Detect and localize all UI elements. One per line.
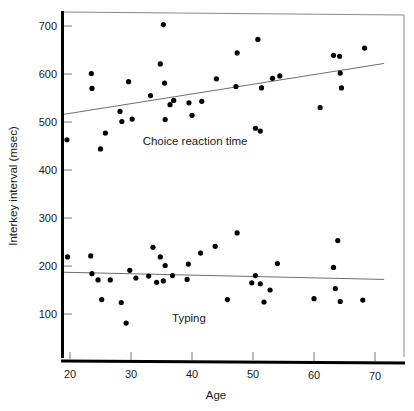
data-point xyxy=(162,81,167,86)
data-point xyxy=(89,86,94,91)
data-point xyxy=(214,76,219,81)
data-point xyxy=(362,45,367,50)
data-point xyxy=(253,273,258,278)
x-tick-label-20: 20 xyxy=(64,368,76,380)
data-point xyxy=(163,263,168,268)
y-tick-label-300: 300 xyxy=(39,212,57,224)
data-point xyxy=(171,98,176,103)
data-point xyxy=(95,277,100,282)
y-tick-label-500: 500 xyxy=(39,116,57,128)
data-point xyxy=(98,146,103,151)
series-group-typing xyxy=(64,230,384,325)
data-point xyxy=(130,117,135,122)
data-point xyxy=(103,130,108,135)
data-point xyxy=(89,71,94,76)
data-point xyxy=(331,53,336,58)
data-point xyxy=(235,230,240,235)
trend-line-choice-reaction-time xyxy=(64,63,384,114)
frame-top-border xyxy=(62,12,404,15)
data-point xyxy=(339,85,344,90)
y-tick-label-700: 700 xyxy=(39,20,57,32)
data-point xyxy=(270,76,275,81)
annotation-choice-reaction-time: Choice reaction time xyxy=(143,135,248,147)
data-point xyxy=(337,54,342,59)
data-point xyxy=(119,300,124,305)
data-point xyxy=(275,261,280,266)
data-point xyxy=(258,281,263,286)
plot-frame xyxy=(62,12,404,357)
data-point xyxy=(360,297,365,302)
data-point xyxy=(186,100,191,105)
data-point xyxy=(331,265,336,270)
data-point xyxy=(213,244,218,249)
y-axis-title: Interkey interval (msec) xyxy=(7,126,19,246)
data-point xyxy=(333,286,338,291)
data-point xyxy=(158,254,163,259)
chart-canvas: 700 600 500 400 300 200 100 20 30 40 50 … xyxy=(0,0,414,411)
data-point xyxy=(161,22,166,27)
data-point xyxy=(133,275,138,280)
data-point xyxy=(163,117,168,122)
x-tick-label-30: 30 xyxy=(125,368,137,380)
y-tick-label-100: 100 xyxy=(39,308,57,320)
x-axis-ticks xyxy=(70,352,375,361)
data-point xyxy=(150,245,155,250)
data-point xyxy=(338,299,343,304)
data-point xyxy=(161,278,166,283)
data-point xyxy=(119,119,124,124)
data-point xyxy=(259,85,264,90)
y-tick-label-400: 400 xyxy=(39,164,57,176)
data-point xyxy=(253,126,258,131)
data-point xyxy=(233,84,238,89)
data-point xyxy=(255,37,260,42)
data-point xyxy=(124,321,129,326)
data-point xyxy=(185,277,190,282)
data-point xyxy=(311,296,316,301)
x-tick-label-70: 70 xyxy=(369,370,381,382)
x-tick-label-50: 50 xyxy=(247,368,259,380)
x-axis-tick-labels: 20 30 40 50 60 70 xyxy=(64,368,381,382)
axis-spines xyxy=(61,11,405,363)
series-group-choice-reaction-time xyxy=(64,22,384,152)
data-point xyxy=(117,109,122,114)
data-point xyxy=(318,105,323,110)
data-point xyxy=(146,273,151,278)
data-point xyxy=(277,73,282,78)
data-point xyxy=(198,250,203,255)
y-axis-tick-labels: 700 600 500 400 300 200 100 xyxy=(39,20,57,320)
data-point xyxy=(186,261,191,266)
data-point xyxy=(99,297,104,302)
x-tick-label-40: 40 xyxy=(186,368,198,380)
data-point xyxy=(88,253,93,258)
data-point xyxy=(199,99,204,104)
scatter-chart-figure: 700 600 500 400 300 200 100 20 30 40 50 … xyxy=(0,0,414,411)
data-point xyxy=(127,268,132,273)
data-point xyxy=(189,113,194,118)
data-point xyxy=(170,273,175,278)
data-point xyxy=(258,129,263,134)
data-series-layer xyxy=(64,22,384,326)
x-tick-label-60: 60 xyxy=(308,369,320,381)
data-point xyxy=(154,280,159,285)
data-point xyxy=(249,280,254,285)
data-point xyxy=(338,70,343,75)
data-point xyxy=(167,102,172,107)
data-point xyxy=(267,287,272,292)
data-point xyxy=(148,93,153,98)
data-point xyxy=(108,277,113,282)
data-point xyxy=(335,238,340,243)
y-tick-label-200: 200 xyxy=(39,260,57,272)
y-axis-ticks xyxy=(64,26,72,314)
data-point xyxy=(225,297,230,302)
data-point xyxy=(126,79,131,84)
y-tick-label-600: 600 xyxy=(39,68,57,80)
x-axis-title: Age xyxy=(206,389,226,401)
data-point xyxy=(65,254,70,259)
data-point xyxy=(89,271,94,276)
data-point xyxy=(261,299,266,304)
annotation-typing: Typing xyxy=(172,312,206,324)
data-point xyxy=(64,137,69,142)
data-point xyxy=(235,50,240,55)
data-point xyxy=(158,61,163,66)
x-axis-spine xyxy=(61,361,405,363)
